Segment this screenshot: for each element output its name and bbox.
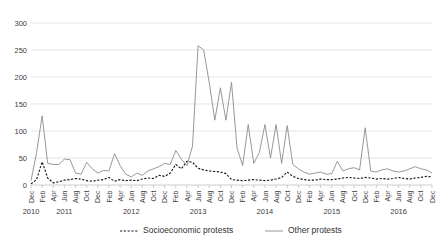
year-label: 2011	[56, 207, 72, 216]
year-label: 2013	[190, 207, 207, 216]
x-tick-label: Apr	[50, 190, 58, 202]
x-tick-label: Aug	[339, 190, 347, 203]
x-tick-label: Oct	[217, 190, 224, 201]
x-tick-label: Dec	[28, 190, 35, 203]
x-tick-label: Apr	[117, 190, 125, 202]
protest-trend-line-chart: 050100150200250300 DecFebAprJunAugOctDec…	[0, 0, 440, 244]
x-axis-year-labels: 2010201120122013201420152016	[23, 207, 407, 216]
x-tick-label: Feb	[39, 190, 46, 202]
legend-label: Other protests	[288, 225, 342, 235]
x-tick-label: Jun	[128, 190, 135, 201]
y-tick-label: 50	[19, 154, 27, 163]
y-axis-tick-labels: 050100150200250300	[14, 19, 27, 190]
x-tick-label: Aug	[406, 190, 414, 203]
x-tick-label: Apr	[384, 190, 392, 202]
y-tick-label: 150	[14, 100, 27, 109]
x-axis-tick-labels: DecFebAprJunAugOctDecFebAprJunAugOctDecF…	[28, 190, 436, 203]
year-label: 2010	[23, 207, 40, 216]
series-line-solid	[31, 46, 432, 181]
x-tick-label: Feb	[172, 190, 179, 202]
x-tick-label: Oct	[150, 190, 157, 201]
year-label: 2016	[390, 207, 407, 216]
x-tick-label: Dec	[362, 190, 369, 203]
x-tick-label: Apr	[250, 190, 258, 202]
y-tick-label: 300	[14, 19, 27, 28]
x-tick-label: Feb	[106, 190, 113, 202]
x-tick-label: Dec	[161, 190, 168, 203]
year-label: 2012	[123, 207, 140, 216]
x-tick-label: Feb	[373, 190, 380, 202]
x-tick-label: Dec	[94, 190, 101, 203]
x-tick-label: Jun	[195, 190, 202, 201]
x-tick-label: Aug	[206, 190, 214, 203]
x-tick-label: Jun	[395, 190, 402, 201]
x-tick-label: Oct	[417, 190, 424, 201]
x-tick-label: Oct	[83, 190, 90, 201]
x-tick-label: Apr	[317, 190, 325, 202]
data-series-group	[31, 46, 432, 184]
x-tick-label: Oct	[284, 190, 291, 201]
y-tick-label: 200	[14, 73, 27, 82]
chart-canvas: 050100150200250300 DecFebAprJunAugOctDec…	[0, 0, 440, 244]
x-tick-label: Dec	[228, 190, 235, 203]
gridlines-group	[31, 23, 432, 185]
year-label: 2014	[257, 207, 274, 216]
x-tick-label: Apr	[184, 190, 192, 202]
chart-legend: Socioeconomic protestsOther protests	[120, 225, 342, 235]
x-tick-label: Feb	[306, 190, 313, 202]
x-tick-label: Jun	[262, 190, 269, 201]
y-tick-label: 100	[14, 127, 27, 136]
x-tick-label: Aug	[139, 190, 147, 203]
x-axis-ticks	[31, 185, 432, 188]
x-tick-label: Dec	[429, 190, 436, 203]
x-tick-label: Oct	[351, 190, 358, 201]
x-tick-label: Aug	[273, 190, 281, 203]
x-tick-label: Aug	[72, 190, 80, 203]
y-tick-label: 0	[23, 181, 27, 190]
x-tick-label: Dec	[295, 190, 302, 203]
y-tick-label: 250	[14, 46, 27, 55]
legend-label: Socioeconomic protests	[143, 225, 233, 235]
x-tick-label: Jun	[61, 190, 68, 201]
x-tick-label: Jun	[328, 190, 335, 201]
series-line-dashed	[31, 161, 432, 184]
x-tick-label: Feb	[239, 190, 246, 202]
year-label: 2015	[323, 207, 340, 216]
